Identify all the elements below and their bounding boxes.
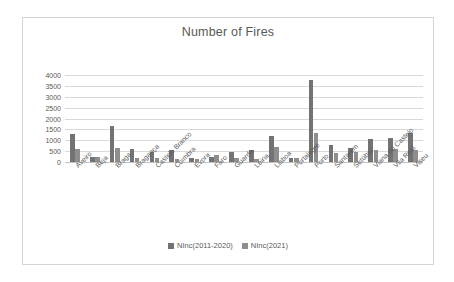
y-tick-label: 1000 bbox=[45, 137, 61, 144]
bar-group bbox=[70, 75, 80, 162]
bar-group bbox=[209, 75, 219, 162]
chart-legend: NInc(2011-2020)NInc(2021) bbox=[23, 241, 433, 250]
y-tick-label: 3000 bbox=[45, 93, 61, 100]
bar-group bbox=[110, 75, 120, 162]
legend-label: NInc(2021) bbox=[251, 241, 288, 250]
bar[interactable] bbox=[110, 126, 115, 162]
legend-label: NInc(2011-2020) bbox=[177, 241, 233, 250]
y-tick-label: 4000 bbox=[45, 72, 61, 79]
bar-group bbox=[289, 75, 299, 162]
legend-entry[interactable]: NInc(2011-2020) bbox=[168, 241, 233, 250]
y-tick-label: 3500 bbox=[45, 82, 61, 89]
chart-title: Number of Fires bbox=[23, 25, 433, 39]
y-axis: 05001000150020002500300035004000 bbox=[23, 75, 63, 162]
bar-group bbox=[130, 75, 140, 162]
legend-swatch-icon bbox=[242, 243, 248, 249]
y-tick-label: 1500 bbox=[45, 126, 61, 133]
y-tick-label: 2500 bbox=[45, 104, 61, 111]
legend-swatch-icon bbox=[168, 243, 174, 249]
bar[interactable] bbox=[229, 152, 234, 162]
bar[interactable] bbox=[70, 134, 75, 162]
y-tick-label: 0 bbox=[57, 159, 61, 166]
x-axis: AveiroBejaBragaBragançaCastelo BrancoCoi… bbox=[65, 164, 423, 224]
legend-entry[interactable]: NInc(2021) bbox=[242, 241, 288, 250]
bar-group bbox=[269, 75, 279, 162]
y-tick-label: 500 bbox=[49, 148, 61, 155]
bar-group bbox=[329, 75, 339, 162]
bar[interactable] bbox=[189, 158, 194, 162]
y-tick-label: 2000 bbox=[45, 115, 61, 122]
bar-group bbox=[90, 75, 100, 162]
bar[interactable] bbox=[329, 145, 334, 162]
chart-container: Number of Fires 050010001500200025003000… bbox=[22, 17, 434, 265]
bar-group bbox=[229, 75, 239, 162]
